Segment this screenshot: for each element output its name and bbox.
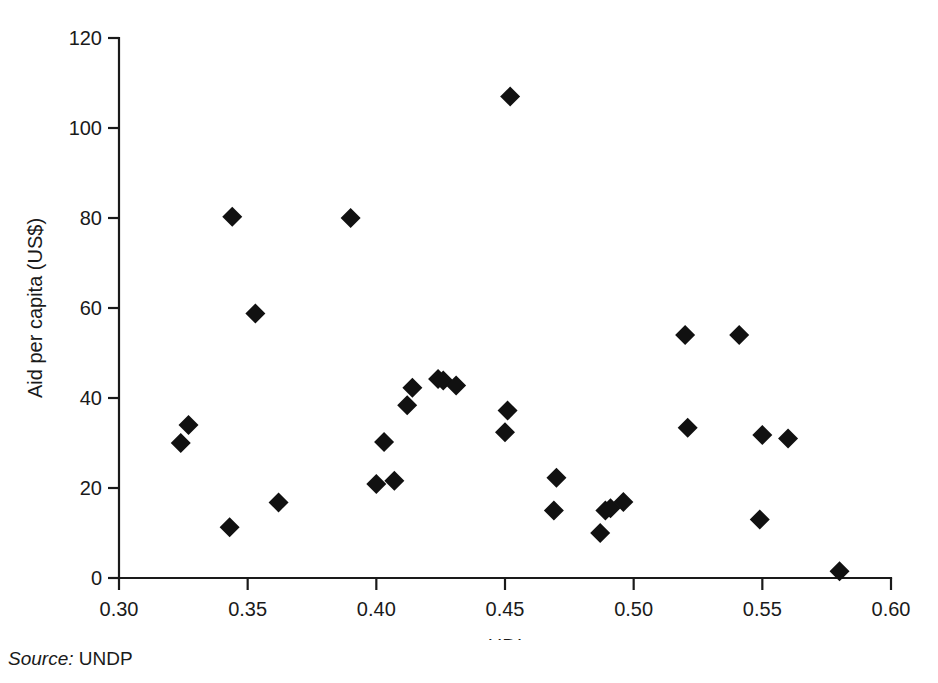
data-point	[178, 415, 198, 435]
y-axis-title: Aid per capita (US$)	[24, 218, 46, 398]
data-point	[546, 468, 566, 488]
x-tick-label-5: 0.55	[743, 598, 782, 620]
data-point	[544, 501, 564, 521]
data-point	[500, 87, 520, 107]
data-point	[590, 523, 610, 543]
data-point	[397, 395, 417, 415]
x-tick-label-0: 0.30	[100, 598, 139, 620]
source-value: UNDP	[79, 648, 133, 669]
y-tick-label-0: 0	[91, 567, 102, 589]
x-tick-label-1: 0.35	[228, 598, 267, 620]
cropped-text-fragment	[0, 0, 938, 14]
x-axis-title: HDI	[488, 635, 522, 640]
data-point	[341, 208, 361, 228]
chart-plot-area: 0204060801001200.300.350.400.450.500.550…	[0, 0, 938, 640]
data-point	[678, 418, 698, 438]
data-point	[220, 517, 240, 537]
data-point	[269, 492, 289, 512]
data-point	[384, 471, 404, 491]
data-point	[366, 474, 386, 494]
source-label: Source:	[8, 648, 73, 669]
data-point	[245, 303, 265, 323]
y-tick-label-6: 120	[69, 27, 102, 49]
data-point	[750, 510, 770, 530]
x-tick-label-6: 0.60	[872, 598, 911, 620]
data-point	[171, 433, 191, 453]
y-tick-label-5: 100	[69, 117, 102, 139]
y-tick-label-2: 40	[80, 387, 102, 409]
scatter-chart-figure: 0204060801001200.300.350.400.450.500.550…	[0, 0, 938, 683]
data-point	[402, 378, 422, 398]
data-point	[778, 429, 798, 449]
data-point	[222, 207, 242, 227]
y-tick-label-4: 80	[80, 207, 102, 229]
x-tick-label-3: 0.45	[486, 598, 525, 620]
x-tick-label-4: 0.50	[614, 598, 653, 620]
data-point	[752, 425, 772, 445]
source-note: Source: UNDP	[8, 649, 133, 668]
data-point	[495, 422, 515, 442]
y-tick-label-1: 20	[80, 477, 102, 499]
y-tick-label-3: 60	[80, 297, 102, 319]
data-point	[374, 432, 394, 452]
data-point	[675, 325, 695, 345]
data-point	[729, 325, 749, 345]
data-point	[498, 401, 518, 421]
x-tick-label-2: 0.40	[357, 598, 396, 620]
